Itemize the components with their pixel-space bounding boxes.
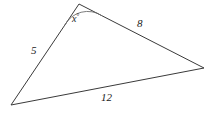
- side-label-5: 5: [31, 45, 37, 56]
- side-label-8: 8: [137, 18, 143, 29]
- triangle-figure: 5 8 12 x°: [0, 0, 219, 120]
- angle-label-x: x°: [72, 13, 79, 24]
- side-label-12: 12: [101, 92, 112, 103]
- degree-symbol: °: [76, 12, 79, 20]
- angle-arc: [65, 11, 103, 25]
- triangle-outline: [11, 4, 204, 105]
